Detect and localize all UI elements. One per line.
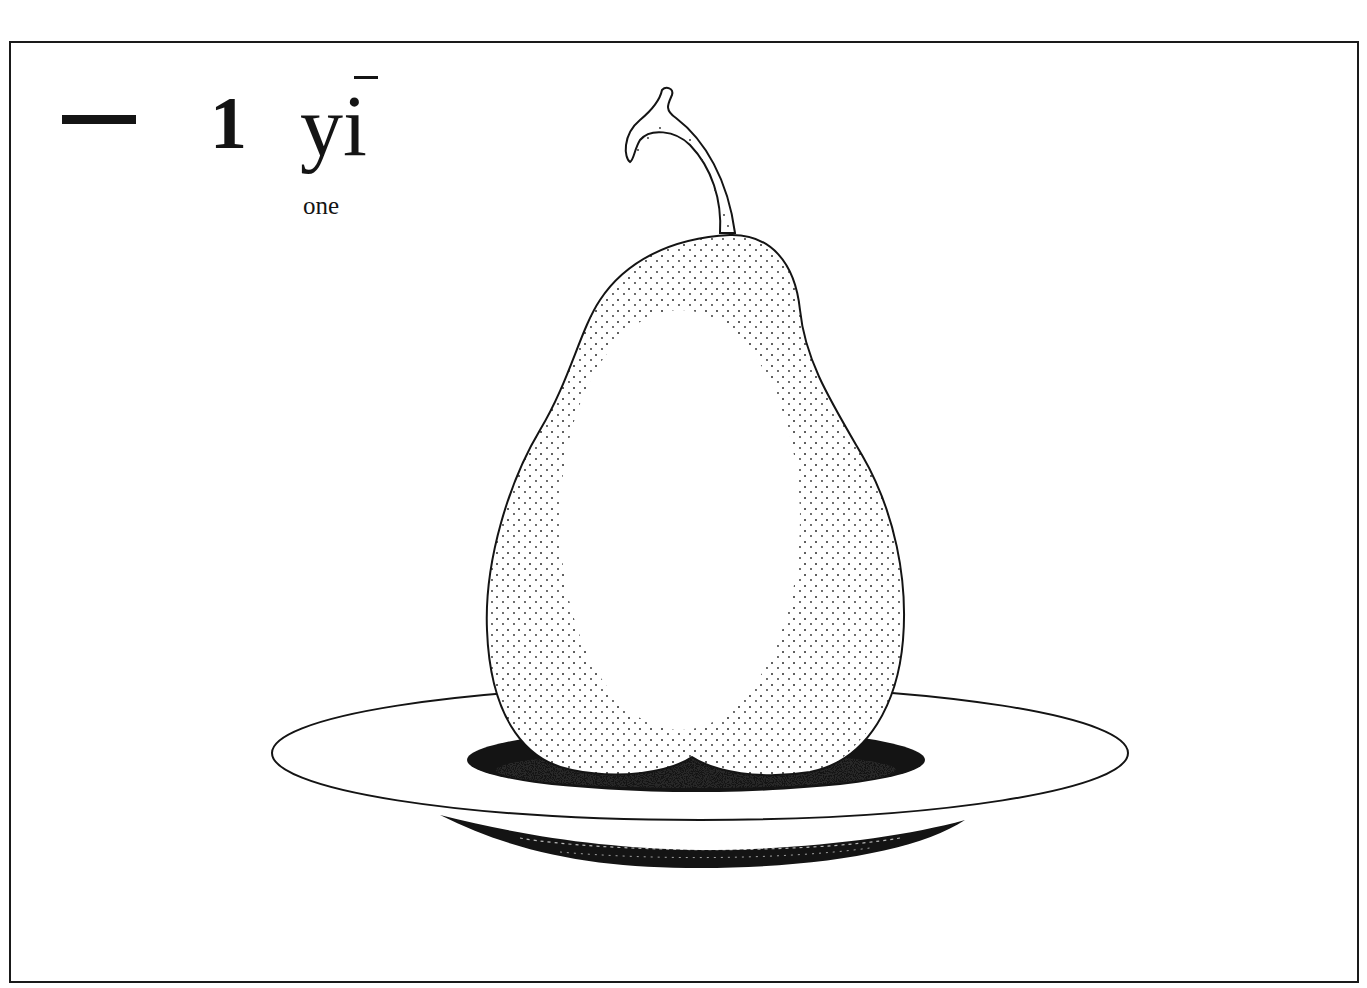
plate-base-shadow <box>440 815 965 868</box>
pear-illustration <box>0 0 1367 988</box>
pear-stem <box>626 88 735 233</box>
